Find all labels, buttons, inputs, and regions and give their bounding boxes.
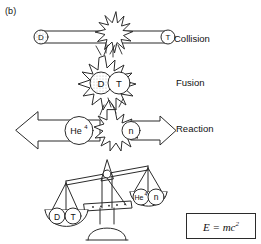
particle-tritium-fusion: T (108, 72, 130, 94)
scale-strut (107, 178, 126, 205)
scale-level-dots (92, 203, 126, 208)
collision-row: D T (34, 12, 175, 57)
fusion-row: D T (78, 44, 136, 115)
equation-operator-symbol: = (212, 220, 219, 232)
balance-scale: D T He 4 (45, 160, 167, 240)
collision-burst-icon (95, 12, 133, 57)
svg-text:n: n (128, 126, 133, 136)
diagram-canvas: D T (0, 0, 261, 244)
equation-rhs-base: mc (223, 220, 236, 232)
reaction-row: He 4 n (16, 98, 176, 151)
svg-text:He: He (135, 194, 144, 201)
svg-text:T: T (116, 78, 122, 89)
svg-text:T: T (166, 33, 171, 42)
scale-left-pan: D T (45, 183, 88, 227)
stage-label-reaction: Reaction (176, 123, 214, 134)
equation-lhs: E (203, 220, 210, 232)
svg-text:4: 4 (145, 191, 148, 197)
particle-neutron-reaction: n (122, 122, 140, 140)
energy-equation-text: E = mc2 (203, 220, 239, 233)
left-pan-item-tritium: T (65, 208, 81, 224)
right-pan-item-helium4: He 4 (133, 189, 149, 205)
left-pan-item-deuterium: D (49, 208, 65, 224)
right-pan-item-neutron: n (148, 189, 164, 205)
scale-pivot (103, 170, 111, 178)
svg-text:He: He (70, 126, 82, 136)
energy-equation-box: E = mc2 (186, 213, 256, 239)
particle-tritium-collision: T (161, 30, 175, 44)
stage-label-collision: Collision (174, 33, 210, 44)
fusion-reaction-figure: (b) D (0, 0, 261, 244)
particle-deuterium-collision: D (34, 30, 48, 44)
particle-helium4-reaction: He 4 (65, 117, 93, 145)
scale-base (88, 228, 126, 240)
svg-text:n: n (154, 192, 159, 202)
scale-right-pan: He 4 n (130, 168, 167, 206)
svg-text:D: D (98, 78, 105, 89)
svg-text:D: D (38, 33, 44, 42)
equation-rhs-exponent: 2 (236, 220, 240, 228)
svg-text:D: D (54, 212, 60, 222)
svg-text:T: T (70, 212, 75, 222)
stage-label-fusion: Fusion (176, 77, 205, 88)
